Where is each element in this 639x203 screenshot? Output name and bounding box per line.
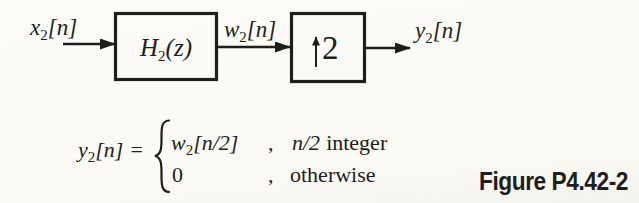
- output-signal-label: y2[n]: [413, 18, 462, 46]
- figure-page: x2[n] H2(z) w2[n] 2 y2[n] y2[n]= w2[n/2]…: [0, 0, 639, 203]
- case-row-1-condition: n/2integer: [292, 130, 388, 155]
- cases-brace-icon: [155, 121, 169, 193]
- equation-lhs: y2[n]=: [76, 137, 143, 165]
- figure-caption: Figure P4.42-2: [479, 166, 628, 196]
- figure-canvas: x2[n] H2(z) w2[n] 2 y2[n] y2[n]= w2[n/2]…: [0, 0, 639, 203]
- case-row-1-separator: ,: [268, 130, 274, 155]
- case-row-2-separator: ,: [268, 162, 274, 187]
- case-row-2-condition: otherwise: [290, 162, 376, 187]
- intermediate-signal-label: w2[n]: [224, 17, 276, 45]
- upsample-factor-label: 2: [322, 30, 339, 66]
- filter-block-label: H2(z): [139, 34, 192, 64]
- input-signal-label: x2[n]: [29, 15, 77, 43]
- case-row-2-value: 0: [172, 162, 183, 187]
- case-row-1-value: w2[n/2]: [171, 130, 238, 158]
